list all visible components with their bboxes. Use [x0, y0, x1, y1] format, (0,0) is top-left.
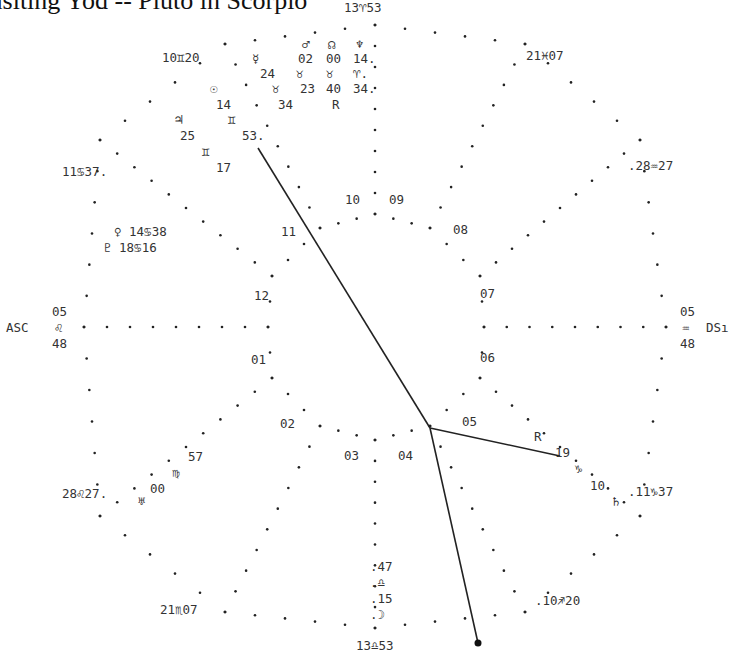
chart-dot — [374, 522, 377, 525]
chart-dot — [149, 553, 152, 556]
chart-dot — [575, 193, 578, 196]
chart-dot — [623, 152, 626, 155]
chart-dot — [254, 261, 257, 264]
chart-dot — [450, 466, 453, 469]
chart-dot — [149, 100, 152, 103]
dsc-label: DSı — [706, 322, 729, 335]
chart-dot — [434, 620, 437, 623]
chart-dot — [495, 261, 498, 264]
node-minutes: 40 — [326, 83, 341, 96]
neptune-minutes: 34. — [353, 83, 376, 96]
neptune-degree: 14. — [353, 53, 376, 66]
chart-dot — [344, 28, 347, 31]
chart-dot — [642, 326, 645, 329]
chart-dot — [337, 429, 340, 432]
dsc-minutes: 48 — [680, 338, 695, 351]
dsc-degree: 05 — [680, 306, 695, 319]
chart-dot — [505, 326, 508, 329]
chart-dot — [152, 326, 155, 329]
aspect-lines — [258, 148, 560, 647]
uranus-icon: ♅︎ — [138, 496, 146, 509]
cusp-12-label: 11♋︎37. — [62, 166, 107, 179]
chart-dot — [374, 543, 377, 546]
cusp-6-label: .11♑︎37 — [628, 486, 673, 499]
venus-position: ♀︎ 14♋︎38 — [114, 226, 167, 239]
chart-dot — [255, 549, 258, 552]
chart-dot — [88, 263, 91, 266]
chart-dot — [527, 234, 530, 237]
node-degree: 00 — [326, 53, 341, 66]
chart-dot — [439, 206, 442, 209]
chart-dot — [255, 104, 258, 107]
chart-dot — [647, 452, 650, 455]
chart-dot — [616, 534, 619, 537]
house-09: 09 — [389, 194, 404, 207]
neptune-icon: ♆︎ — [356, 39, 364, 52]
chart-dot — [660, 357, 663, 360]
chart-dot — [219, 418, 222, 421]
node-sign-icon: ♉︎ — [326, 68, 334, 81]
house-01: 01 — [251, 354, 266, 367]
chart-dot — [494, 39, 497, 42]
cusp-9-label: 21♓︎07 — [526, 50, 564, 63]
chart-dot — [83, 326, 86, 329]
jupiter-minutes: 53. — [242, 130, 265, 143]
chart-dot — [88, 389, 91, 392]
chart-dot — [269, 351, 272, 354]
gemini-sign-icon: ♊︎ — [228, 114, 236, 127]
chart-dot — [607, 487, 610, 490]
chart-dot — [591, 180, 594, 183]
chart-dot — [314, 31, 317, 34]
mercury-degree: 24 — [260, 68, 275, 81]
chart-dot — [528, 326, 531, 329]
mars-minutes: 23 — [300, 83, 315, 96]
chart-dot — [616, 120, 619, 123]
chart-dot — [219, 234, 222, 237]
asc-label: ASC — [6, 322, 29, 335]
chart-dot — [593, 100, 596, 103]
cusp-5-label: .10♐︎20 — [535, 595, 580, 608]
chart-dot — [175, 326, 178, 329]
chart-dot — [202, 220, 205, 223]
cusp-2-label: 28♌︎27. — [62, 488, 107, 501]
chart-dot — [410, 222, 413, 225]
chart-dot — [591, 473, 594, 476]
chart-dot — [236, 404, 239, 407]
chart-dot — [392, 434, 395, 437]
chart-dot — [513, 63, 516, 66]
chart-dot — [355, 434, 358, 437]
chart-dot — [374, 627, 377, 630]
chart-dot — [503, 84, 506, 87]
chart-dot — [464, 35, 467, 38]
chart-dot — [652, 232, 655, 235]
sun-minutes: 17 — [216, 162, 231, 175]
house-03: 03 — [344, 450, 359, 463]
chart-dot — [133, 166, 136, 169]
chart-dot — [276, 145, 279, 148]
chart-dot — [133, 487, 136, 490]
chart-dot — [337, 222, 340, 225]
house-11: 11 — [281, 226, 296, 239]
chart-dot — [483, 326, 486, 329]
chart-dot — [656, 263, 659, 266]
chart-dot — [298, 466, 301, 469]
chart-dot — [284, 35, 287, 38]
chart-dot — [495, 391, 498, 394]
chart-dot — [287, 165, 290, 168]
chart-dot — [314, 620, 317, 623]
house-10: 10 — [345, 194, 360, 207]
mercury-sign-icon: ♉︎ — [272, 83, 280, 96]
chart-dot — [665, 326, 668, 329]
saturn-retrograde: R — [534, 431, 542, 444]
chart-dot — [450, 186, 453, 189]
chart-dot — [374, 480, 377, 483]
chart-dot — [434, 31, 437, 34]
sun-icon: ☉︎ — [210, 83, 218, 96]
chart-dot — [374, 24, 377, 27]
saturn-sign-icon: ♑︎ — [575, 463, 583, 476]
chart-dot — [245, 84, 248, 87]
chart-dot — [85, 295, 88, 298]
chart-dot — [543, 432, 546, 435]
chart-dot — [150, 473, 153, 476]
house-06: 06 — [480, 352, 495, 365]
